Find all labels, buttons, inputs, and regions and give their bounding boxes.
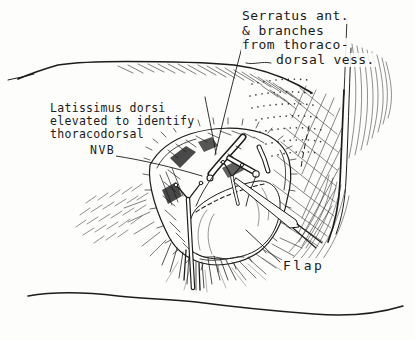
label-flap-text: Flap [282, 258, 325, 273]
label-serratus-line2: & branches [241, 24, 325, 39]
label-serratus: Serratus ant. & branches from thoraco- d… [241, 9, 376, 67]
nvb-leader-line [116, 156, 202, 176]
label-latissimus-line3: thoracodorsal [49, 128, 145, 141]
left-diagonal-hatch [76, 184, 148, 243]
label-serratus-line1: Serratus ant. [241, 9, 350, 24]
bottom-skin-contour [28, 293, 403, 315]
illustration-page: Serratus ant. & branches from thoraco- d… [0, 0, 415, 340]
label-nvb: NVB [89, 144, 116, 157]
label-flap: Flap [282, 258, 325, 273]
label-serratus-line4: dorsal vess. [275, 53, 376, 68]
label-latissimus: Latissimus dorsi elevated to identify th… [49, 102, 195, 157]
label-serratus-line3: from thoraco- [241, 38, 350, 53]
stipple-field [250, 79, 322, 156]
